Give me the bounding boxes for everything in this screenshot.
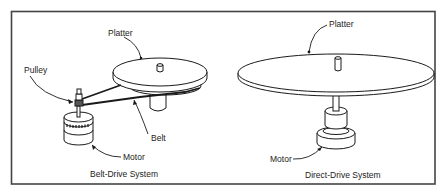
belt-drive-caption: Belt-Drive System <box>90 169 158 179</box>
direct-drive-panel <box>238 25 434 159</box>
belt-drive-belt-label: Belt <box>151 133 166 143</box>
figure-frame <box>12 12 436 185</box>
motor-base <box>317 127 355 149</box>
belt-drive-motor-label: Motor <box>123 152 145 162</box>
belt-drive-pulley-label: Pulley <box>24 65 48 75</box>
belt-drive-panel <box>30 37 207 157</box>
turntable-drive-diagram: Platter Pulley Belt Motor Belt-Drive Sys… <box>0 0 444 194</box>
spindle-icon <box>335 57 341 71</box>
direct-drive-platter-label: Platter <box>329 19 354 29</box>
direct-drive-caption: Direct-Drive System <box>305 170 381 180</box>
belt-drive-platter-label: Platter <box>108 28 133 38</box>
direct-drive-motor-label: Motor <box>270 154 292 164</box>
spindle-icon <box>157 64 163 72</box>
